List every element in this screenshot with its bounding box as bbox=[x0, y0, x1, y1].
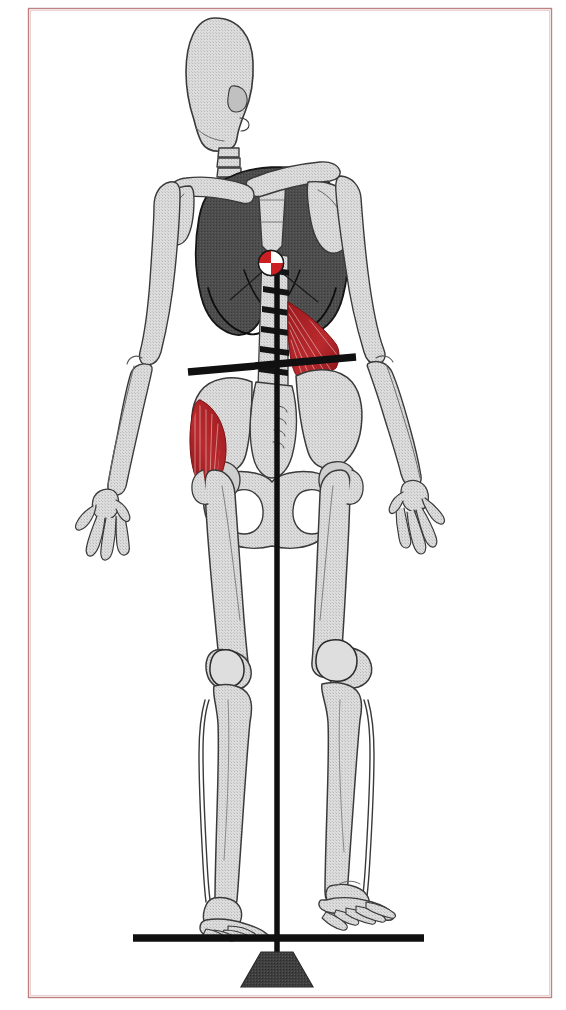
illustration-figure: Skeletal postural alignment with plumb l… bbox=[0, 0, 566, 1010]
skeleton-illustration-canvas bbox=[0, 0, 566, 1010]
patella-right bbox=[316, 640, 357, 682]
center-of-gravity-marker bbox=[259, 251, 284, 276]
patella-left bbox=[210, 650, 244, 687]
sacrum bbox=[250, 382, 296, 478]
